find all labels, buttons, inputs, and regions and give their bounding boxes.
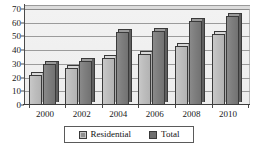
bar-group: [65, 9, 98, 105]
bar-front-face: [102, 58, 115, 105]
bar-side-face: [56, 61, 59, 102]
y-axis-tick-label: 20: [12, 73, 21, 82]
y-axis-tick-label: 50: [12, 32, 21, 41]
x-axis-line: [23, 104, 250, 105]
plot-area: [24, 9, 250, 105]
x-axis-tick-label: 2000: [36, 110, 54, 119]
bar-total: [226, 16, 239, 105]
x-axis-tick-mark: [65, 105, 66, 108]
bar-front-face: [43, 64, 56, 105]
bar-group: [138, 9, 171, 105]
bar-total: [152, 31, 165, 105]
x-axis-tick-label: 2008: [182, 110, 200, 119]
bar-total: [116, 32, 129, 105]
bar-front-face: [65, 68, 78, 105]
bar-total: [189, 21, 202, 105]
bar-front-face: [116, 32, 129, 105]
x-axis-tick-mark: [248, 105, 249, 108]
bar-front-face: [79, 61, 92, 105]
bar-residential: [175, 46, 188, 105]
bar-side-face: [165, 28, 168, 102]
bar-residential: [65, 68, 78, 105]
bar-front-face: [189, 21, 202, 105]
x-axis-tick-label: 2006: [146, 110, 164, 119]
y-axis-line: [24, 4, 25, 105]
bar-front-face: [29, 75, 42, 105]
bar-residential: [138, 54, 151, 105]
bar-group: [175, 9, 208, 105]
residential-swatch-icon: [79, 131, 87, 139]
x-axis-tick-mark: [102, 105, 103, 108]
x-axis-tick-mark: [138, 105, 139, 108]
bar-side-face: [239, 13, 242, 102]
bar-residential: [212, 34, 225, 105]
bar-total: [43, 64, 56, 105]
bar-front-face: [138, 54, 151, 105]
y-axis-tick-label: 40: [12, 46, 21, 55]
bar-side-face: [202, 18, 205, 102]
bar-front-face: [212, 34, 225, 105]
bar-group: [212, 9, 245, 105]
y-axis-tick-label: 60: [12, 18, 21, 27]
x-axis-tick-mark: [212, 105, 213, 108]
total-swatch-icon: [149, 131, 157, 139]
y-axis-tick-label: 30: [12, 59, 21, 68]
bar-front-face: [226, 16, 239, 105]
x-axis: 2000 2002 2004 2006 2008 2010: [24, 108, 250, 122]
bar-total: [79, 61, 92, 105]
legend-item-residential[interactable]: Residential: [79, 130, 132, 139]
bar-residential: [102, 58, 115, 105]
y-axis: 70 60 50 40 30 20 10 0: [0, 9, 21, 105]
x-axis-tick-label: 2010: [219, 110, 237, 119]
y-axis-tick-label: 70: [12, 5, 21, 14]
bar-side-face: [129, 29, 132, 102]
legend-label: Total: [161, 130, 179, 139]
bar-residential: [29, 75, 42, 105]
legend-item-total[interactable]: Total: [149, 130, 179, 139]
x-axis-tick-mark: [29, 105, 30, 108]
x-axis-tick-mark: [175, 105, 176, 108]
y-axis-tick-label: 10: [12, 87, 21, 96]
bar-groups: [24, 9, 250, 105]
x-axis-tick-label: 2002: [73, 110, 91, 119]
bar-group: [29, 9, 62, 105]
bar-group: [102, 9, 135, 105]
bar-side-face: [92, 58, 95, 102]
bar-front-face: [152, 31, 165, 105]
bar-chart: 70 60 50 40 30 20 10 0: [0, 0, 257, 147]
chart-legend: Residential Total: [64, 126, 194, 143]
bar-front-face: [175, 46, 188, 105]
x-axis-tick-label: 2004: [109, 110, 127, 119]
legend-label: Residential: [91, 130, 132, 139]
